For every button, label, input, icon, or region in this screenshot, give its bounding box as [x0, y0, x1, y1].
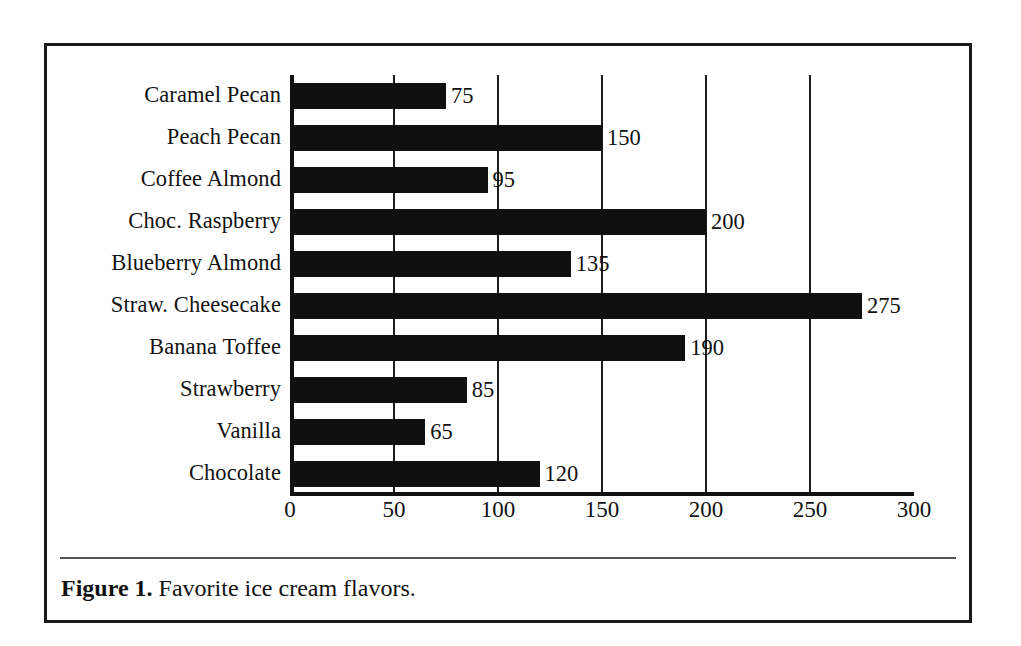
bar [290, 377, 467, 403]
bar [290, 209, 706, 235]
value-tick-label: 50 [383, 498, 406, 521]
value-tick-label: 250 [793, 498, 828, 521]
plot-area: 75150952001352751908565120 [290, 75, 914, 496]
bar [290, 251, 571, 277]
gridline [705, 75, 707, 494]
category-label: Chocolate [47, 462, 281, 485]
bar-chart: Caramel PecanPeach PecanCoffee AlmondCho… [47, 46, 969, 541]
bar [290, 83, 446, 109]
bar-value-label: 190 [685, 335, 724, 361]
category-label: Straw. Cheesecake [47, 294, 281, 317]
category-label: Banana Toffee [47, 336, 281, 359]
bar [290, 461, 540, 487]
figure-caption-text: Favorite ice cream flavors. [159, 575, 416, 601]
value-tick-label: 150 [585, 498, 620, 521]
bar-value-label: 135 [571, 251, 610, 277]
category-label: Choc. Raspberry [47, 210, 281, 233]
figure-frame: Caramel PecanPeach PecanCoffee AlmondCho… [44, 43, 972, 623]
bar-value-label: 200 [706, 209, 745, 235]
bar-value-label: 150 [602, 125, 641, 151]
category-label: Coffee Almond [47, 168, 281, 191]
category-axis: Caramel PecanPeach PecanCoffee AlmondCho… [47, 75, 281, 496]
figure-caption-label: Figure 1. [61, 575, 153, 601]
figure-caption: Figure 1. Favorite ice cream flavors. [61, 573, 951, 603]
bar-value-label: 95 [488, 167, 516, 193]
category-label: Blueberry Almond [47, 252, 281, 275]
bar-value-label: 120 [540, 461, 579, 487]
value-axis-ticks: 050100150200250300 [290, 498, 930, 532]
value-tick-label: 0 [284, 498, 296, 521]
gridline [809, 75, 811, 494]
bar [290, 293, 862, 319]
bar [290, 125, 602, 151]
bar [290, 335, 685, 361]
caption-divider [60, 557, 956, 559]
category-label: Peach Pecan [47, 126, 281, 149]
value-tick-label: 300 [897, 498, 932, 521]
bar [290, 167, 488, 193]
bar [290, 419, 425, 445]
category-label: Strawberry [47, 378, 281, 401]
value-axis-baseline [290, 492, 914, 496]
bar-value-label: 85 [467, 377, 495, 403]
bar-value-label: 65 [425, 419, 453, 445]
category-label: Vanilla [47, 420, 281, 443]
value-tick-label: 100 [481, 498, 516, 521]
category-label: Caramel Pecan [47, 84, 281, 107]
value-tick-label: 200 [689, 498, 724, 521]
bar-value-label: 275 [862, 293, 901, 319]
bar-value-label: 75 [446, 83, 474, 109]
